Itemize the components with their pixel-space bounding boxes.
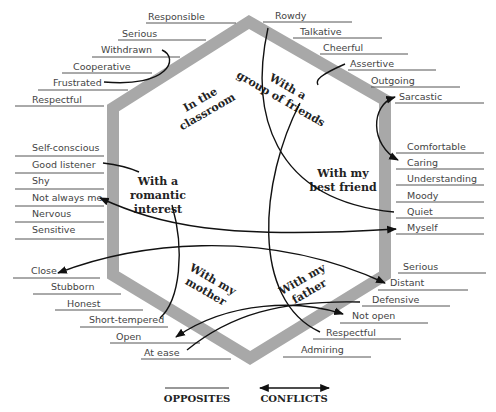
trait-not-always-me: Not always me	[32, 192, 103, 203]
trait-self-conscious: Self-conscious	[32, 142, 99, 153]
trait-good-listener: Good listener	[32, 159, 96, 170]
svg-text:With my: With my	[316, 167, 369, 180]
trait-respectful-father: Respectful	[326, 327, 376, 338]
trait-moody: Moody	[407, 190, 439, 201]
trait-frustrated: Frustrated	[53, 77, 102, 88]
trait-caring: Caring	[407, 157, 438, 168]
trait-understanding: Understanding	[407, 173, 477, 184]
trait-defensive: Defensive	[372, 294, 420, 305]
svg-text:With a: With a	[137, 175, 178, 188]
legend-conflicts-label: CONFLICTS	[260, 393, 327, 404]
trait-quiet: Quiet	[407, 206, 433, 217]
trait-admiring: Admiring	[301, 344, 344, 355]
trait-distant: Distant	[390, 277, 424, 288]
trait-talkative: Talkative	[299, 26, 342, 37]
trait-cooperative: Cooperative	[73, 61, 131, 72]
trait-nervous: Nervous	[32, 208, 71, 219]
trait-myself: Myself	[407, 222, 438, 233]
legend: OPPOSITES CONFLICTS	[164, 388, 329, 404]
svg-text:romantic: romantic	[130, 189, 186, 202]
trait-outgoing: Outgoing	[371, 75, 415, 86]
trait-respectful: Respectful	[32, 94, 82, 105]
trait-sarcastic: Sarcastic	[399, 91, 442, 102]
trait-at-ease: At ease	[144, 347, 180, 358]
trait-stubborn: Stubborn	[51, 281, 94, 292]
trait-close: Close	[31, 265, 57, 276]
trait-honest: Honest	[67, 298, 101, 309]
legend-opposites-label: OPPOSITES	[164, 393, 231, 404]
trait-not-open: Not open	[352, 310, 395, 321]
trait-shy: Shy	[32, 175, 50, 186]
trait-rowdy: Rowdy	[275, 10, 307, 21]
trait-withdrawn: Withdrawn	[101, 44, 152, 55]
trait-serious: Serious	[122, 28, 157, 39]
traits-best-friend: Comfortable Caring Understanding Moody Q…	[396, 141, 484, 234]
self-concept-hexagon-diagram: Responsible Serious Withdrawn Cooperativ…	[0, 0, 496, 412]
trait-cheerful: Cheerful	[323, 42, 363, 53]
context-romantic-label: With a romantic interest	[130, 175, 186, 216]
trait-sensitive: Sensitive	[32, 224, 75, 235]
context-mother-label: With my mother	[179, 261, 238, 311]
context-classroom-label: In the classroom	[170, 78, 238, 133]
traits-romantic: Self-conscious Good listener Shy Not alw…	[15, 142, 104, 239]
svg-text:best friend: best friend	[309, 181, 376, 194]
trait-comfortable: Comfortable	[407, 141, 466, 152]
trait-serious-father: Serious	[403, 261, 438, 272]
trait-open: Open	[116, 331, 141, 342]
trait-short-tempered: Short-tempered	[89, 314, 164, 325]
trait-assertive: Assertive	[350, 58, 394, 69]
trait-responsible: Responsible	[148, 11, 205, 22]
